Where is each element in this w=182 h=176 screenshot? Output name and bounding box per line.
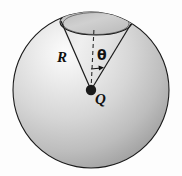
physics-figure-sphere-cone: R θ Q (0, 0, 182, 176)
radius-label: R (57, 50, 67, 65)
angle-label-theta: θ (97, 48, 107, 62)
charge-label: Q (95, 92, 106, 107)
figure-canvas (0, 0, 182, 176)
